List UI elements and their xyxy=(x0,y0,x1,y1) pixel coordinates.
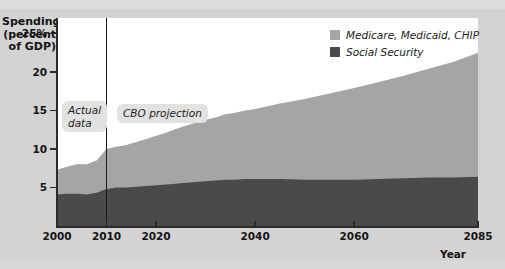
legend-swatch-icon xyxy=(330,30,340,40)
y-tick-mark xyxy=(50,187,57,189)
chart-figure: Spending (percent of GDP) 25%2015105 200… xyxy=(0,0,505,269)
x-tick-label: 2010 xyxy=(92,230,121,242)
figure-bottom-strip xyxy=(0,261,505,269)
annotation-cbo-projection: CBO projection xyxy=(117,104,208,123)
y-tick-mark xyxy=(50,110,57,112)
x-tick-mark xyxy=(254,221,256,227)
x-tick-mark xyxy=(477,221,479,227)
y-tick-mark xyxy=(50,148,57,150)
annotation-actual-data: Actual data xyxy=(62,101,107,132)
y-tick-label: 25% xyxy=(22,27,47,39)
y-tick-label: 5 xyxy=(40,181,47,193)
x-tick-mark xyxy=(155,221,157,227)
y-tick-mark xyxy=(50,71,57,73)
x-tick-label: 2000 xyxy=(42,230,71,242)
x-tick-label: 2020 xyxy=(141,230,170,242)
legend-item-label: Medicare, Medicaid, CHIP xyxy=(346,29,479,41)
x-tick-label: 2060 xyxy=(340,230,369,242)
x-axis-title: Year xyxy=(440,248,466,260)
figure-top-strip xyxy=(0,0,505,9)
y-axis-line xyxy=(56,18,58,227)
y-tick-label: 15 xyxy=(32,104,47,116)
legend: Medicare, Medicaid, CHIP Social Security xyxy=(330,27,479,61)
y-tick-label: 10 xyxy=(32,143,47,155)
y-tick-label: 20 xyxy=(32,66,47,78)
legend-item-social-security: Social Security xyxy=(330,44,479,59)
x-tick-mark xyxy=(56,221,58,227)
x-axis-line xyxy=(56,226,479,228)
x-tick-mark xyxy=(106,221,108,227)
x-tick-label: 2085 xyxy=(463,230,492,242)
x-tick-mark xyxy=(353,221,355,227)
legend-swatch-icon xyxy=(330,47,340,57)
x-tick-label: 2040 xyxy=(240,230,269,242)
y-tick-mark xyxy=(50,33,57,35)
legend-item-label: Social Security xyxy=(346,46,424,58)
legend-item-medicare: Medicare, Medicaid, CHIP xyxy=(330,27,479,42)
